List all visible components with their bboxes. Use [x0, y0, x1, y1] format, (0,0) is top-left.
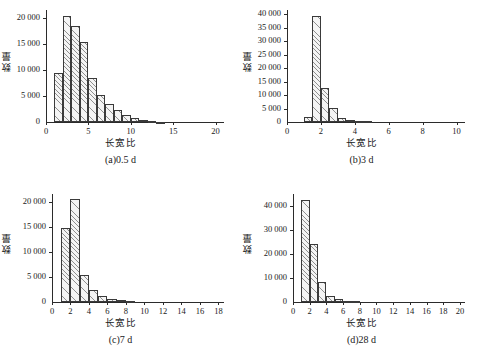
histogram-bar	[310, 244, 318, 302]
y-tick	[284, 55, 287, 56]
histogram-bar	[80, 42, 88, 122]
y-tick-label: 5 000	[241, 104, 281, 113]
x-tick-label: 20	[196, 127, 236, 136]
y-axis-line	[52, 194, 53, 302]
panel-caption: (a)0.5 d	[0, 154, 241, 166]
y-axis-title: 数量	[243, 232, 253, 254]
x-tick	[200, 302, 201, 305]
histogram-bar	[346, 120, 354, 122]
x-tick	[218, 302, 219, 305]
x-axis-line	[287, 122, 465, 123]
y-tick-label: 20 000	[0, 197, 46, 206]
x-axis-title: 长宽比	[241, 318, 482, 329]
x-tick	[144, 302, 145, 305]
x-tick	[427, 302, 428, 305]
x-tick-label: 18	[198, 307, 238, 316]
y-tick-label: 35 000	[241, 23, 281, 32]
y-tick	[290, 230, 293, 231]
y-tick	[284, 28, 287, 29]
y-tick	[284, 41, 287, 42]
panel-caption: (c)7 d	[0, 334, 241, 346]
histogram-bar	[326, 296, 334, 302]
histogram-bar	[97, 95, 105, 122]
x-tick	[393, 302, 394, 305]
histogram-bar	[54, 73, 62, 122]
x-tick	[287, 122, 288, 125]
histogram-bar	[105, 104, 113, 122]
x-tick-label: 0	[26, 127, 66, 136]
y-tick-label: 15 000	[0, 39, 40, 48]
histogram-bar	[131, 118, 139, 122]
y-tick	[49, 277, 52, 278]
x-tick	[52, 302, 53, 305]
y-tick	[43, 70, 46, 71]
histogram-bar	[156, 122, 164, 124]
panel-d: 02468101214161820010 00020 00030 00040 0…	[241, 182, 482, 363]
x-tick	[216, 122, 217, 125]
figure-histogram-grid: 0510152005 00010 00015 00020 000长宽比数量(a)…	[0, 0, 482, 363]
y-tick-label: 0	[0, 297, 46, 306]
histogram-bar	[343, 301, 351, 303]
histogram-bar	[351, 301, 359, 303]
histogram-bar	[80, 275, 89, 302]
histogram-bar	[89, 290, 98, 302]
x-tick-label: 20	[440, 307, 480, 316]
x-tick-label: 5	[68, 127, 108, 136]
y-tick	[49, 202, 52, 203]
y-tick	[49, 227, 52, 228]
histogram-bar	[301, 200, 309, 302]
histogram-bar	[107, 299, 116, 302]
panel-a: 0510152005 00010 00015 00020 000长宽比数量(a)…	[0, 0, 241, 181]
y-axis-title: 数量	[2, 232, 12, 254]
x-tick	[70, 302, 71, 305]
y-tick	[284, 95, 287, 96]
x-tick	[163, 302, 164, 305]
panel-b: 024681005 00010 00015 00020 00025 00030 …	[241, 0, 482, 181]
x-tick	[131, 122, 132, 125]
histogram-bar	[355, 121, 363, 123]
y-tick-label: 20 000	[0, 13, 40, 22]
histogram-bar	[363, 121, 371, 123]
y-axis-line	[287, 10, 288, 122]
panel-c: 02468101214161805 00010 00015 00020 000长…	[0, 182, 241, 363]
y-tick	[290, 254, 293, 255]
y-tick-label: 15 000	[241, 77, 281, 86]
y-tick	[284, 68, 287, 69]
panel-caption: (d)28 d	[241, 334, 482, 346]
x-tick	[326, 302, 327, 305]
histogram-bar	[312, 16, 320, 122]
y-tick-label: 15 000	[0, 222, 46, 231]
x-axis-line	[46, 122, 224, 123]
y-tick-label: 5 000	[0, 272, 46, 281]
x-tick-label: 10	[111, 127, 151, 136]
panel-caption: (b)3 d	[241, 154, 482, 166]
y-axis-line	[46, 10, 47, 122]
histogram-bar	[98, 296, 107, 302]
histogram-bar	[117, 300, 126, 302]
y-tick-label: 10 000	[241, 90, 281, 99]
x-tick	[310, 302, 311, 305]
histogram-bar	[70, 199, 79, 302]
x-tick	[173, 122, 174, 125]
x-tick	[293, 302, 294, 305]
x-tick	[376, 302, 377, 305]
x-tick	[46, 122, 47, 125]
y-axis-title: 数量	[2, 50, 12, 72]
histogram-bar	[88, 78, 96, 122]
histogram-bar	[335, 299, 343, 302]
x-tick	[460, 302, 461, 305]
y-tick-label: 5 000	[0, 91, 40, 100]
histogram-bar	[122, 115, 130, 122]
histogram-bar	[126, 301, 135, 303]
y-tick	[284, 109, 287, 110]
y-tick-label: 0	[241, 117, 281, 126]
x-tick	[410, 302, 411, 305]
histogram-bar	[71, 26, 79, 122]
y-tick-label: 0	[241, 297, 287, 306]
y-tick	[43, 96, 46, 97]
y-tick	[43, 18, 46, 19]
x-tick-label: 10	[437, 127, 477, 136]
x-tick	[89, 302, 90, 305]
x-tick	[181, 302, 182, 305]
histogram-bar	[329, 108, 337, 122]
